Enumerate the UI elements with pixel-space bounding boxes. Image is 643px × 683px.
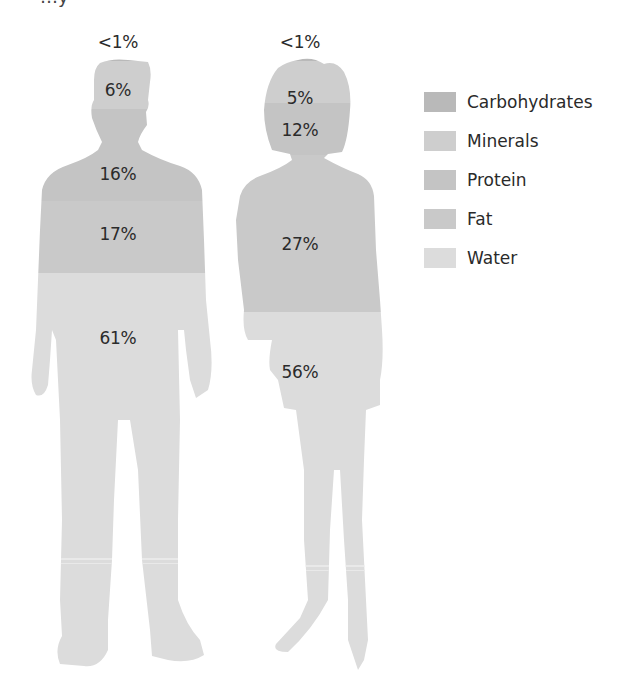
fat-swatch: [424, 209, 456, 229]
legend-label: Protein: [467, 170, 527, 190]
legend-label: Minerals: [467, 131, 539, 151]
man-silhouette: <1% 6% 16% 17% 61%: [0, 0, 220, 683]
legend-item-minerals: Minerals: [424, 131, 592, 151]
woman-water-label: 56%: [282, 362, 319, 382]
protein-swatch: [424, 170, 456, 190]
man-minerals-label: 6%: [105, 80, 131, 100]
legend-item-protein: Protein: [424, 170, 592, 190]
man-water-label: 61%: [100, 328, 137, 348]
water-swatch: [424, 248, 456, 268]
minerals-swatch: [424, 131, 456, 151]
legend-item-fat: Fat: [424, 209, 592, 229]
man-fat-label: 17%: [100, 224, 137, 244]
legend-label: Carbohydrates: [467, 92, 592, 112]
woman-carbohydrates-label: <1%: [280, 32, 320, 52]
man-protein-label: 16%: [100, 164, 137, 184]
carbohydrates-swatch: [424, 92, 456, 112]
legend-label: Fat: [467, 209, 492, 229]
legend-item-water: Water: [424, 248, 592, 268]
woman-protein-label: 12%: [282, 120, 319, 140]
legend: Carbohydrates Minerals Protein Fat Water: [424, 92, 592, 287]
woman-minerals-label: 5%: [287, 88, 313, 108]
legend-item-carbohydrates: Carbohydrates: [424, 92, 592, 112]
legend-label: Water: [467, 248, 517, 268]
man-carbohydrates-label: <1%: [98, 32, 138, 52]
woman-silhouette: <1% 5% 12% 27% 56%: [220, 0, 410, 683]
woman-fat-label: 27%: [282, 234, 319, 254]
